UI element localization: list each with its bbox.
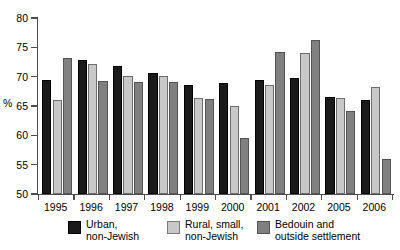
y-tick-mark (31, 17, 37, 18)
bar (63, 58, 72, 194)
x-tick-mark (180, 195, 181, 200)
y-tick-label: 75 (16, 42, 28, 52)
bar (382, 159, 391, 194)
y-tick-label: 60 (16, 130, 28, 140)
y-axis-title: % (3, 98, 12, 108)
x-tick-label: 2002 (286, 201, 321, 213)
legend-label-line1: Urban, (86, 219, 139, 231)
bar (336, 98, 345, 194)
bar (275, 52, 284, 194)
light-gray-square-icon (167, 221, 180, 234)
bar (184, 85, 193, 194)
x-tick-label: 2005 (321, 201, 356, 213)
bar (219, 83, 228, 194)
legend-label-line1: Rural, small, (185, 219, 243, 231)
x-tick-label: 1999 (180, 201, 215, 213)
bar (159, 76, 168, 194)
x-tick-mark (38, 195, 39, 200)
y-tick-mark (31, 105, 37, 106)
bar (53, 100, 62, 194)
y-tick-mark (31, 76, 37, 77)
bar (265, 85, 274, 194)
bar (123, 76, 132, 194)
black-square-icon (68, 221, 81, 234)
x-tick-label: 1995 (38, 201, 73, 213)
bar (325, 97, 334, 194)
x-tick-mark (357, 195, 358, 200)
bar (240, 138, 249, 194)
x-tick-label: 1996 (73, 201, 108, 213)
y-tick-label: 65 (16, 101, 28, 111)
x-tick-mark (73, 195, 74, 200)
bar (78, 60, 87, 194)
x-tick-label: 2000 (215, 201, 250, 213)
x-tick-label: 2006 (357, 201, 392, 213)
legend-label-line1: Bedouin and (275, 219, 360, 231)
medium-gray-square-icon (257, 221, 270, 234)
bar (205, 99, 214, 194)
bar (98, 81, 107, 194)
y-tick-label: 50 (16, 189, 28, 199)
legend-label-bedouin-outside-settlement: Bedouin and outside settlement (275, 219, 360, 242)
bar (311, 40, 320, 194)
x-tick-mark (109, 195, 110, 200)
bar (300, 53, 309, 194)
bar (371, 87, 380, 194)
x-tick-label: 1998 (144, 201, 179, 213)
chart-legend: Urban, non-Jewish Rural, small, non-Jewi… (0, 219, 400, 250)
bar (194, 98, 203, 194)
y-tick-mark (31, 135, 37, 136)
y-tick-mark (31, 164, 37, 165)
bar (230, 106, 239, 194)
x-tick-mark (144, 195, 145, 200)
legend-item-bedouin-outside-settlement: Bedouin and outside settlement (257, 219, 360, 242)
x-tick-label: 2001 (250, 201, 285, 213)
plot-area (38, 18, 392, 194)
legend-label-line2: non-Jewish (86, 231, 139, 243)
legend-item-rural-small-non-jewish: Rural, small, non-Jewish (167, 219, 243, 242)
y-tick-mark (31, 193, 37, 194)
bar (42, 80, 51, 194)
x-tick-mark (321, 195, 322, 200)
y-tick-mark (31, 47, 37, 48)
bar (290, 78, 299, 194)
bar (88, 64, 97, 194)
legend-label-line2: outside settlement (275, 231, 360, 243)
bar (113, 66, 122, 194)
legend-label-rural-small-non-jewish: Rural, small, non-Jewish (185, 219, 243, 242)
x-tick-mark (286, 195, 287, 200)
x-tick-mark (392, 195, 393, 200)
bar (169, 82, 178, 194)
y-tick-label: 70 (16, 72, 28, 82)
bar-chart: % 50556065707580 19951996199719981999200… (0, 0, 400, 250)
bar (361, 100, 370, 194)
bar (255, 80, 264, 194)
x-tick-label: 1997 (109, 201, 144, 213)
y-tick-label: 80 (16, 13, 28, 23)
bar (134, 82, 143, 194)
x-tick-mark (215, 195, 216, 200)
legend-item-urban-non-jewish: Urban, non-Jewish (68, 219, 139, 242)
bar (346, 111, 355, 194)
legend-label-urban-non-jewish: Urban, non-Jewish (86, 219, 139, 242)
legend-label-line2: non-Jewish (185, 231, 243, 243)
bar (148, 73, 157, 194)
x-tick-mark (250, 195, 251, 200)
y-tick-label: 55 (16, 160, 28, 170)
